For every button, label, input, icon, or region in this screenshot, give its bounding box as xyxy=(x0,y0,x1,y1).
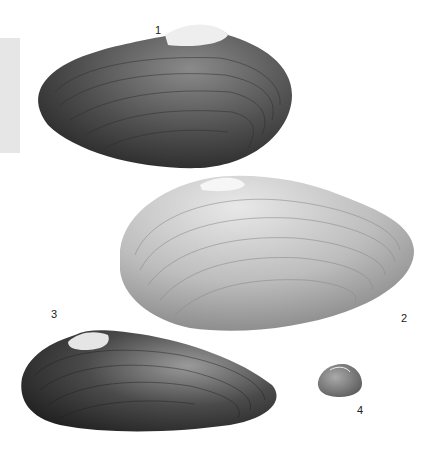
shell-figure-2 xyxy=(120,176,414,331)
figure-label-4: 4 xyxy=(357,404,363,416)
shell-figure-3 xyxy=(21,330,276,431)
shell-figure-4 xyxy=(318,364,362,397)
figure-label-2: 2 xyxy=(401,312,407,324)
figure-label-1: 1 xyxy=(155,24,161,36)
figure-label-3: 3 xyxy=(51,308,57,320)
shell-figure-1 xyxy=(38,24,292,168)
shell-plate xyxy=(0,0,431,463)
